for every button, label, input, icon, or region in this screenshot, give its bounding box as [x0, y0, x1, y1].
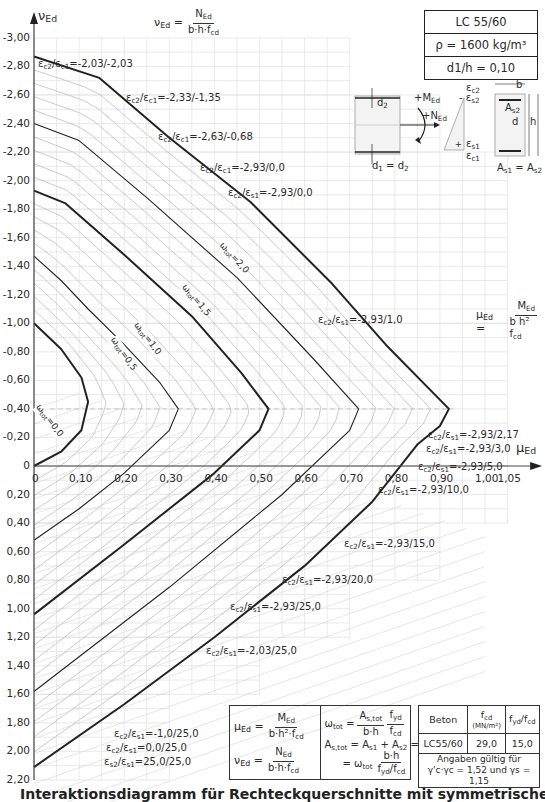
y-tick: 0,40 [0, 516, 30, 528]
y-tick: -2,00 [0, 174, 30, 186]
validity-note: Angaben gültig für γ'c·γc = 1,52 und γs … [419, 754, 540, 788]
x-tick: 0,90 [430, 472, 453, 484]
legend-mu: μEd = MEdb·h²·fcd [234, 712, 306, 743]
x-tick: 0,40 [204, 472, 227, 484]
strain-annotation: εc2/εs1=-2,93/25,0 [230, 601, 321, 614]
y-tick: 1,40 [0, 659, 30, 671]
es2-label: - εs2 [459, 92, 480, 105]
strain-annotation: εc2/εs1=0,0/25,0 [106, 742, 187, 755]
y-tick: -2,60 [0, 88, 30, 100]
strain-annotation: εc2/εs1=-2,93/10,0 [378, 484, 469, 497]
spec-density: ρ = 1600 kg/m³ [425, 34, 537, 57]
x-tick: 1,05 [498, 472, 521, 484]
strain-annotation: εc2/εs1=-2,93/15,0 [344, 538, 435, 551]
strain-annotation: εc2/εs1=-2,93/5,0 [418, 461, 503, 474]
spec-concrete: LC 55/60 [425, 11, 537, 34]
x-tick: 0,20 [114, 472, 137, 484]
x-tick: 0,10 [69, 472, 92, 484]
h-label: h [530, 116, 536, 127]
legend-omega: ωtot = As,totb·h fydfcd [325, 709, 404, 740]
plus-sign: + [455, 140, 462, 149]
y-axis-label: νEd [38, 8, 57, 24]
y-tick: 1,80 [0, 716, 30, 728]
y-tick: 0 [0, 459, 30, 471]
material-table: Beton fcd(MN/m²) fyd/fcd LC55/60 29,0 15… [418, 705, 540, 788]
mu-formula: μEd = MEdb h² fcd [476, 300, 545, 343]
cell-concrete: LC55/60 [419, 734, 468, 754]
header-fyd-fcd: fyd/fcd [505, 706, 539, 734]
x-axis-label: μEd [516, 440, 536, 456]
moment-label: +MEd [414, 92, 440, 105]
strain-annotation: εs2/εs1=25,0/25,0 [104, 756, 191, 769]
strain-annotation: εc2/εs1=-2,93/0,0 [228, 187, 313, 200]
y-tick: 0,80 [0, 573, 30, 585]
ec1-label: εc1 [466, 150, 480, 163]
x-tick: 0,70 [340, 472, 363, 484]
y-tick: 2,20 [0, 773, 30, 785]
header-beton: Beton [419, 706, 468, 734]
y-tick: -0,80 [0, 345, 30, 357]
header-fcd: fcd(MN/m²) [468, 706, 505, 734]
strain-annotation: εc2/εs1=-2,03/25,0 [206, 645, 297, 658]
x-tick: 0,50 [250, 472, 273, 484]
y-tick: -1,40 [0, 259, 30, 271]
y-tick: -2,20 [0, 145, 30, 157]
as2-label: As2 [505, 102, 520, 115]
b-label: b [516, 79, 522, 90]
d-label: d [512, 116, 518, 127]
cell-fcd: 29,0 [468, 734, 505, 754]
strain-annotation: εc2/εc1=-2,03/-2,03 [38, 58, 133, 71]
y-tick: 1,00 [0, 602, 30, 614]
d1-label: d1 = d2 [372, 160, 409, 173]
strain-annotation: εc2/εc1=-2,33/-1,35 [126, 92, 221, 105]
y-tick: -1,60 [0, 231, 30, 243]
x-tick: 1,00 [475, 472, 498, 484]
strain-annotation: εc2/εs1=-2,93/2,17 [428, 429, 519, 442]
strain-annotation: εc2/εs1=-2,93/3,0 [426, 443, 511, 456]
x-tick: 0,60 [295, 472, 318, 484]
strain-annotation: εc2/εs1=-2,93/20,0 [282, 574, 373, 587]
y-tick: -1,20 [0, 288, 30, 300]
legend-col-mu-nu: μEd = MEdb·h²·fcd νEd = NEdb·h·fcd [230, 706, 320, 779]
strain-annotation: εc2/εs1=-1,0/25,0 [114, 728, 199, 741]
y-tick: 0,20 [0, 488, 30, 500]
x-tick: 0,80 [385, 472, 408, 484]
spec-ratio: d1/h = 0,10 [425, 57, 537, 79]
x-tick: 0 [32, 472, 39, 484]
nu-formula: νEd = NEdb·h·fcd [154, 8, 221, 39]
spec-box: LC 55/60 ρ = 1600 kg/m³ d1/h = 0,10 [424, 10, 538, 80]
d2-label: d2 [377, 97, 388, 110]
y-tick: -1,80 [0, 202, 30, 214]
y-tick: -0,20 [0, 430, 30, 442]
legend-as-eq: = ωtot b·hfyd/fcd [343, 750, 408, 778]
strain-annotation: εc2/εc1=-2,63/-0,68 [158, 131, 253, 144]
as1-label: As1 = As2 [497, 162, 542, 175]
y-tick: -0,60 [0, 373, 30, 385]
formula-legend: μEd = MEdb·h²·fcd νEd = NEdb·h·fcd ωtot … [229, 705, 411, 780]
y-tick: 2,00 [0, 744, 30, 756]
strain-annotation: εc2/εs1=-2,93/1,0 [318, 314, 403, 327]
legend-col-omega: ωtot = As,totb·h fydfcd As,tot = As1 + A… [320, 706, 411, 779]
es1-label: εs1 [466, 138, 480, 151]
y-tick: -3,00 [0, 31, 30, 43]
figure-caption: Interaktionsdiagramm für Rechteckquersch… [20, 786, 545, 802]
normal-force-label: +NEd [422, 110, 447, 123]
y-tick: 0,60 [0, 545, 30, 557]
y-tick: 1,20 [0, 630, 30, 642]
cell-ratio: 15,0 [505, 734, 539, 754]
y-tick: -0,40 [0, 402, 30, 414]
y-tick: -2,80 [0, 59, 30, 71]
strain-annotation: εc2/εc1=-2,93/0,0 [200, 162, 285, 175]
y-tick: -1,00 [0, 316, 30, 328]
x-tick: 0,30 [159, 472, 182, 484]
legend-nu: νEd = NEdb·h·fcd [234, 746, 301, 777]
y-tick: 1,60 [0, 687, 30, 699]
y-tick: -2,40 [0, 117, 30, 129]
